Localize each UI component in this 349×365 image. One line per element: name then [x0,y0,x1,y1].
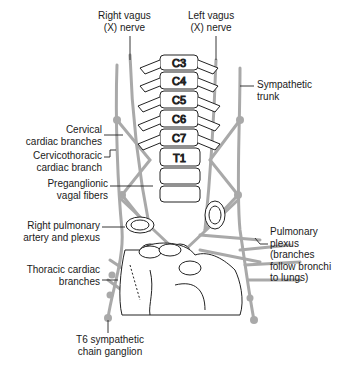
vertebra-c6: C6 [172,113,186,125]
label-right-pulmonary-artery-plexus: Right pulmonary artery and plexus [10,220,100,243]
label-cervicothoracic-cardiac-branch: Cervicothoracic cardiac branch [16,150,102,173]
label-preganglionic-vagal-fibers: Preganglionic vagal fibers [22,178,108,201]
vertebra-c4: C4 [172,75,186,87]
label-t6-sympathetic-chain-ganglion: T6 sympathetic chain ganglion [70,334,150,357]
label-sympathetic-trunk: Sympathetic trunk [257,79,312,102]
vertebra-c7: C7 [172,132,186,144]
label-pulmonary-plexus: Pulmonary plexus (branches follow bronch… [270,226,331,284]
vertebra-c5: C5 [172,94,186,106]
label-right-vagus-nerve: Right vagus (X) nerve [98,10,151,33]
vertebra-c3: C3 [172,57,186,69]
label-left-vagus-nerve: Left vagus (X) nerve [188,10,234,33]
label-thoracic-cardiac-branches: Thoracic cardiac branches [10,264,100,287]
vertebral-column: C3 C4 C5 C6 C7 T1 [138,55,220,202]
vertebra-t1: T1 [173,152,186,164]
label-cervical-cardiac-branches: Cervical cardiac branches [22,124,102,147]
autonomic-innervation-diagram: C3 C4 C5 C6 C7 T1 [0,0,349,365]
